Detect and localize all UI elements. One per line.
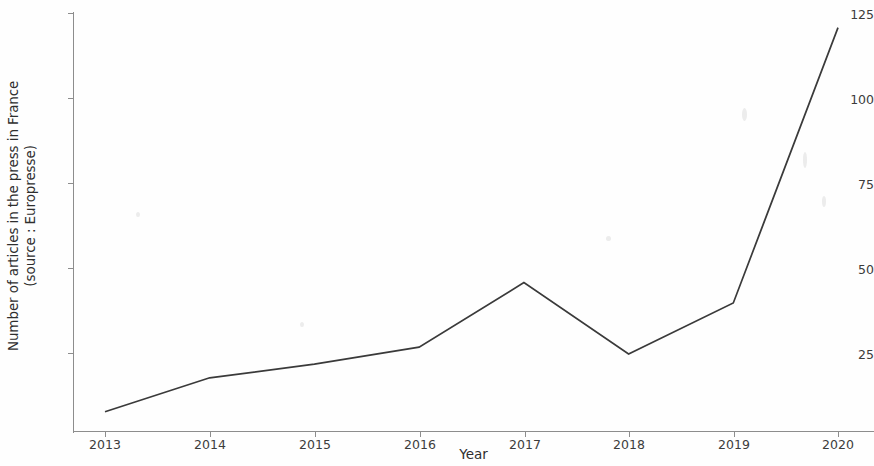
scan-speckle bbox=[742, 108, 747, 121]
scan-speckle bbox=[803, 152, 807, 168]
chart-plot-area bbox=[0, 0, 874, 466]
scan-speckle bbox=[606, 236, 611, 241]
scan-speckle bbox=[136, 212, 140, 217]
scan-speckle bbox=[822, 196, 826, 207]
line-chart-figure: Number of articles in the press in Franc… bbox=[0, 0, 874, 466]
data-series-line bbox=[105, 28, 838, 412]
scan-speckle bbox=[300, 322, 304, 327]
